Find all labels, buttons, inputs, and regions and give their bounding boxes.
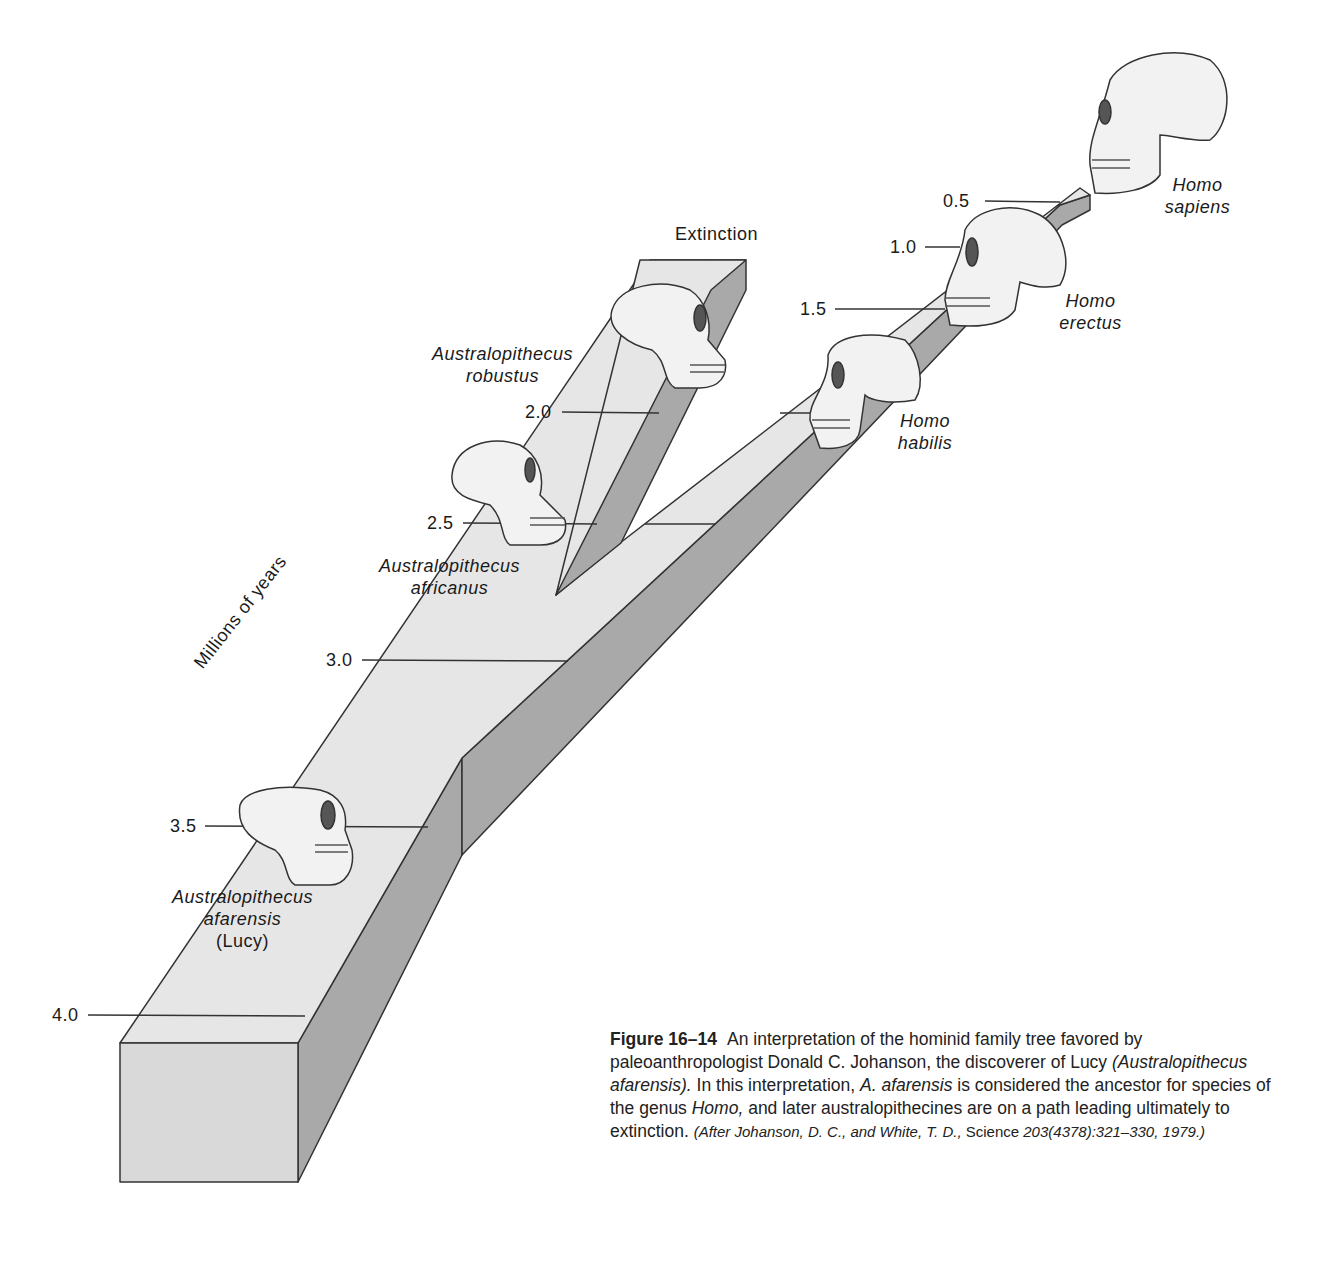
figure-caption: Figure 16–14An interpretation of the hom…: [610, 1028, 1290, 1143]
species-label-robustus: Australopithecus robustus: [410, 343, 595, 387]
tick-label-2-5: 2.5: [427, 513, 454, 533]
trunk-front-face: [120, 1043, 298, 1182]
tick-label-1-0: 1.0: [890, 237, 917, 257]
tick-label-3-5: 3.5: [170, 816, 197, 836]
tick-label-1-5: 1.5: [800, 299, 827, 319]
tick-label-2-0: 2.0: [525, 402, 552, 422]
species-label-afarensis: Australopithecus afarensis (Lucy): [150, 886, 335, 952]
tick-label-4-0: 4.0: [52, 1005, 79, 1025]
extinction-label: Extinction: [675, 223, 758, 245]
figure-number: Figure 16–14: [610, 1029, 717, 1049]
caption-source: (After Johanson, D. C., and White, T. D.…: [694, 1123, 966, 1140]
species-label-sapiens: Homo sapiens: [1160, 174, 1235, 218]
species-label-africanus: Australopithecus africanus: [357, 555, 542, 599]
tick-label-3-0: 3.0: [326, 650, 353, 670]
skull-icon-sapiens: [1090, 53, 1227, 193]
species-label-habilis: Homo habilis: [890, 410, 960, 454]
species-label-erectus: Homo erectus: [1048, 290, 1133, 334]
tick-label-0-5: 0.5: [943, 191, 970, 211]
